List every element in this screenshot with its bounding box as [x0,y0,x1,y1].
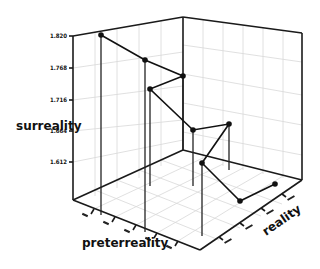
data-point [272,181,278,187]
data-point [147,86,153,92]
data-point [199,160,205,166]
data-point [237,198,243,204]
z-tick-label: 1.820 [50,32,67,39]
grid-left-wall [73,21,183,196]
data-point [190,127,196,133]
x-axis-title: preterreality [82,236,169,250]
z-tick-label: 1.716 [50,96,67,103]
data-points [98,32,278,204]
z-axis-ticks: 1.820 1.768 1.716 1.664 1.612 [50,32,73,165]
data-point [98,32,104,38]
z-tick-label: 1.768 [50,64,67,71]
grid-floor [94,158,283,241]
data-point [226,121,232,127]
chart-3d-plot: 1.820 1.768 1.716 1.664 1.612 [0,0,320,269]
point-stems [101,35,229,236]
y-axis-title: reality [260,202,304,239]
z-tick-label: 1.612 [50,158,67,165]
data-point [142,57,148,63]
data-point [180,73,186,79]
z-axis-title: surreality [16,119,82,133]
